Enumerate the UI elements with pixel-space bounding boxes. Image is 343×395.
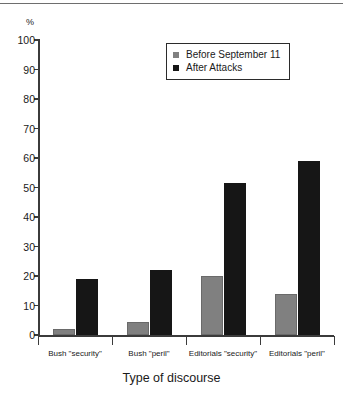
- y-axis-tick-label: 30: [0, 242, 35, 253]
- legend-item-after: After Attacks: [173, 61, 280, 74]
- x-axis-title: Type of discourse: [0, 371, 343, 385]
- gray-square-icon: [173, 52, 179, 58]
- bar-after: [150, 270, 172, 335]
- y-axis-tick-label: 60: [0, 153, 35, 164]
- y-axis-tick-label: 100: [0, 35, 35, 46]
- bar-before: [201, 276, 223, 335]
- y-axis-tick-label: 10: [0, 301, 35, 312]
- y-axis-tick-label: 50: [0, 183, 35, 194]
- bar-after: [76, 279, 98, 335]
- y-axis-tick-label: 80: [0, 94, 35, 105]
- bars-layer: [38, 40, 334, 335]
- bar-after: [298, 161, 320, 335]
- x-axis-category-label: Editorials "peril": [252, 349, 342, 358]
- y-axis-tick-label: 90: [0, 65, 35, 76]
- y-axis-tick-label: 0: [0, 330, 35, 341]
- y-axis-tick-label: 70: [0, 124, 35, 135]
- chart-legend: Before September 11 After Attacks: [166, 43, 290, 80]
- top-divider-rule: [0, 3, 343, 4]
- bar-before: [275, 294, 297, 335]
- x-axis-separator-tick: [260, 336, 261, 345]
- bar-after: [224, 183, 246, 335]
- legend-label-after: After Attacks: [186, 62, 242, 74]
- bar-chart-figure: % 0102030405060708090100 Bush "security"…: [0, 0, 343, 395]
- legend-item-before: Before September 11: [173, 48, 280, 61]
- black-square-icon: [173, 65, 179, 71]
- bar-before: [127, 322, 149, 335]
- x-axis-separator-tick: [38, 336, 39, 345]
- legend-label-before: Before September 11: [186, 49, 280, 61]
- x-axis-separator-tick: [186, 336, 187, 345]
- x-axis-separator-tick: [112, 336, 113, 345]
- bar-before: [53, 329, 75, 335]
- y-axis-tick-label: 20: [0, 271, 35, 282]
- y-axis-tick-label: 40: [0, 212, 35, 223]
- y-axis-unit-label: %: [26, 17, 34, 27]
- x-axis-separator-tick: [334, 336, 335, 345]
